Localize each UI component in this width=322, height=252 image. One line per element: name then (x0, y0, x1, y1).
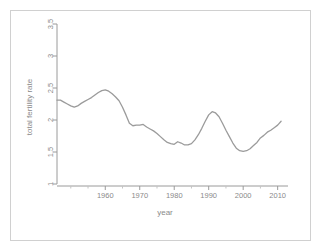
x-tick-label: 1990 (200, 191, 217, 200)
x-tick-label: 2000 (235, 191, 252, 200)
x-tick-label: 1980 (166, 191, 183, 200)
x-tick-label: 2010 (269, 191, 286, 200)
x-tick-label: 1960 (97, 191, 114, 200)
x-axis: 196019701980199020002010 (57, 186, 288, 200)
y-axis: 11.522.533.5 (46, 19, 58, 186)
x-axis-title: year (157, 208, 173, 217)
y-tick-label: 3.5 (46, 19, 55, 29)
y-tick-label: 1 (46, 182, 55, 186)
line-chart-plot: 11.522.533.5 196019701980199020002010 ye… (0, 0, 322, 252)
data-series-line (57, 90, 281, 151)
chart-figure: 11.522.533.5 196019701980199020002010 ye… (0, 0, 322, 252)
y-tick-label: 1.5 (46, 147, 55, 157)
y-tick-label: 3 (46, 54, 55, 58)
y-axis-title: total fertility rate (25, 78, 34, 135)
x-tick-label: 1970 (131, 191, 148, 200)
y-tick-label: 2.5 (46, 83, 55, 93)
y-tick-label: 2 (46, 118, 55, 122)
data-series-group (57, 90, 281, 151)
